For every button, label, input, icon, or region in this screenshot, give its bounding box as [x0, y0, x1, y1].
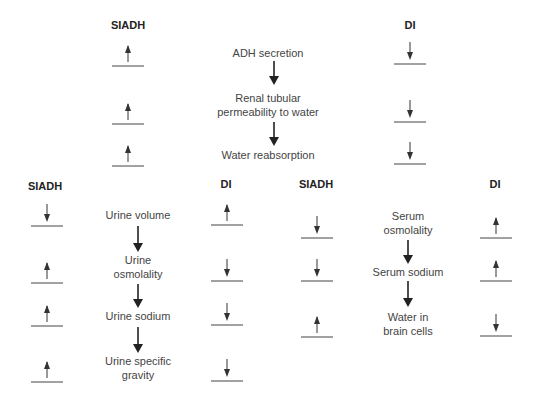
step-water-in-brain-cells: Water in brain cells [383, 310, 433, 338]
arrow-up-icon [31, 259, 63, 285]
flow-arrow-down-icon [132, 327, 144, 357]
arrow-down-icon [301, 214, 333, 240]
step-urine-specific-gravity: Urine specific gravity [105, 354, 171, 382]
arrow-down-icon [394, 98, 426, 124]
flow-arrow-down-icon [402, 281, 414, 311]
arrow-down-icon [394, 140, 426, 166]
arrow-up-icon [112, 100, 144, 126]
arrow-down-icon [211, 301, 243, 327]
arrow-up-icon [31, 358, 63, 384]
flow-arrow-down-icon [132, 284, 144, 312]
flow-arrow-down-icon [402, 240, 414, 268]
step-water-reabsorption: Water reabsorption [221, 148, 314, 162]
step-renal-permeability: Renal tubular permeability to water [217, 91, 319, 119]
arrow-down-icon [394, 40, 426, 66]
arrow-up-icon [31, 302, 63, 328]
arrow-up-icon [112, 142, 144, 168]
flow-arrow-down-icon [268, 61, 280, 89]
flow-arrow-down-icon [132, 226, 144, 256]
arrow-down-icon [211, 357, 243, 383]
arrow-up-icon [301, 313, 333, 339]
step-adh-secretion: ADH secretion [233, 46, 304, 60]
arrow-down-icon [301, 257, 333, 283]
arrow-up-icon [480, 257, 512, 283]
top-di-header: DI [405, 19, 416, 31]
flow-arrow-down-icon [268, 122, 280, 150]
arrow-up-icon [480, 214, 512, 240]
bl-di-header: DI [221, 178, 232, 190]
br-siadh-header: SIADH [299, 178, 333, 190]
arrow-down-icon [211, 257, 243, 283]
br-di-header: DI [490, 178, 501, 190]
arrow-up-icon [211, 201, 243, 227]
arrow-up-icon [112, 42, 144, 68]
step-serum-osmolality: Serum osmolality [384, 209, 433, 237]
arrow-down-icon [31, 202, 63, 228]
bl-siadh-header: SIADH [28, 180, 62, 192]
step-urine-osmolality: Urine osmolality [114, 253, 163, 281]
arrow-down-icon [480, 312, 512, 338]
step-urine-volume: Urine volume [106, 208, 171, 222]
top-siadh-header: SIADH [111, 19, 145, 31]
